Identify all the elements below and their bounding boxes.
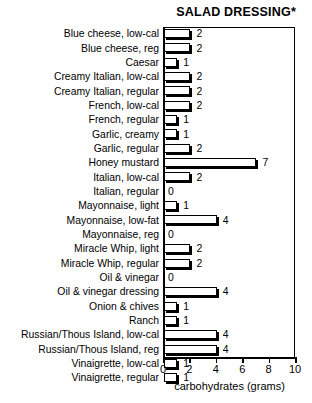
bar-face: [164, 144, 190, 153]
bar: [164, 302, 177, 311]
bar: [164, 72, 190, 81]
bar-area: 1: [164, 199, 312, 213]
category-label: French, low-cal: [89, 101, 159, 111]
bar-value-label: 1: [183, 115, 189, 125]
bar-value-label: 2: [196, 258, 202, 268]
bar-face: [164, 86, 190, 95]
bar-face: [164, 345, 217, 354]
bar-value-label: 2: [196, 172, 202, 182]
bar-face: [164, 172, 190, 181]
bar-row: Onion & chives1: [0, 300, 312, 314]
category-label: Caesar: [126, 58, 160, 68]
x-axis-tick-labels: 0246810: [163, 364, 296, 378]
bar-value-label: 0: [168, 230, 174, 240]
bar: [164, 43, 190, 52]
bar-area: 1: [164, 127, 312, 141]
bar-value-label: 0: [168, 273, 174, 283]
bar-area: 1: [164, 314, 312, 328]
bar: [164, 287, 217, 296]
bar-row: Miracle Whip, regular2: [0, 257, 312, 271]
bar-value-label: 2: [196, 29, 202, 39]
bar-row: Russian/Thous Island, low-cal4: [0, 328, 312, 342]
bar-row: Russian/Thous Island, reg4: [0, 343, 312, 357]
bar: [164, 29, 190, 38]
bar-area: 2: [164, 142, 312, 156]
bar-face: [164, 101, 190, 110]
bar-rows: Blue cheese, low-cal2Blue cheese, reg2Ca…: [0, 27, 312, 386]
bar-value-label: 2: [196, 101, 202, 111]
category-label: Mayonnaise, light: [78, 201, 159, 211]
bar-face: [164, 43, 190, 52]
bar: [164, 172, 190, 181]
bar: [164, 144, 190, 153]
bar-row: Honey mustard7: [0, 156, 312, 170]
bar-area: 2: [164, 170, 312, 184]
bar-face: [164, 259, 190, 268]
category-label: Miracle Whip, light: [74, 244, 159, 254]
bar-row: Creamy Italian, low-cal2: [0, 70, 312, 84]
x-axis-tick-label: 10: [289, 364, 301, 375]
bar-value-label: 4: [223, 345, 229, 355]
bar-value-label: 1: [183, 316, 189, 326]
bar-value-label: 2: [196, 86, 202, 96]
category-label: Onion & chives: [89, 302, 159, 312]
x-axis-tick-label: 4: [213, 364, 219, 375]
x-axis-tick-label: 6: [239, 364, 245, 375]
bar-face: [164, 29, 190, 38]
bar-value-label: 2: [196, 43, 202, 53]
bar-row: French, regular1: [0, 113, 312, 127]
bar-row: Oil & vinegar0: [0, 271, 312, 285]
bar-row: Creamy Italian, regular2: [0, 84, 312, 98]
bar: [164, 158, 256, 167]
x-axis-tick-label: 8: [266, 364, 272, 375]
bar-value-label: 4: [223, 330, 229, 340]
bar-value-label: 1: [183, 302, 189, 312]
x-axis-ticks: [163, 357, 296, 363]
bar-area: 0: [164, 185, 312, 199]
bar-area: 0: [164, 271, 312, 285]
category-label: Italian, low-cal: [93, 172, 159, 182]
category-label: Creamy Italian, regular: [54, 86, 159, 96]
bar: [164, 115, 177, 124]
category-label: Russian/Thous Island, reg: [38, 345, 159, 355]
bar: [164, 345, 217, 354]
bar-face: [164, 129, 177, 138]
bar-area: 4: [164, 328, 312, 342]
bar: [164, 316, 177, 325]
bar-area: 2: [164, 242, 312, 256]
bar-row: Ranch1: [0, 314, 312, 328]
category-label: Russian/Thous Island, low-cal: [21, 330, 159, 340]
bar-row: Garlic, regular2: [0, 142, 312, 156]
bar-value-label: 4: [223, 215, 229, 225]
bar-row: Miracle Whip, light2: [0, 242, 312, 256]
x-axis-title: carbohydrates (grams): [163, 380, 296, 392]
bar-face: [164, 302, 177, 311]
chart-title: SALAD DRESSING*: [176, 5, 296, 19]
category-label: Garlic, creamy: [92, 129, 159, 139]
bar-row: Blue cheese, low-cal2: [0, 27, 312, 41]
bar-area: 2: [164, 70, 312, 84]
category-label: French, regular: [89, 115, 159, 125]
bar-face: [164, 201, 177, 210]
bar-area: 2: [164, 257, 312, 271]
category-label: Ranch: [129, 316, 159, 326]
category-label: Garlic, regular: [94, 144, 159, 154]
bar: [164, 129, 177, 138]
bar-area: 2: [164, 84, 312, 98]
bar-face: [164, 244, 190, 253]
category-label: Mayonnaise, reg: [82, 230, 159, 240]
bar-face: [164, 287, 217, 296]
bar-row: Mayonnaise, reg0: [0, 228, 312, 242]
bar-row: Blue cheese, reg2: [0, 41, 312, 55]
bar-row: Caesar1: [0, 56, 312, 70]
bar-value-label: 0: [168, 187, 174, 197]
bar-area: 2: [164, 99, 312, 113]
bar-face: [164, 330, 217, 339]
category-label: Miracle Whip, regular: [61, 258, 159, 268]
bar-area: 2: [164, 27, 312, 41]
category-label: Mayonnaise, low-fat: [67, 215, 159, 225]
category-label: Honey mustard: [89, 158, 159, 168]
bar-value-label: 7: [262, 158, 268, 168]
bar-area: 2: [164, 41, 312, 55]
bar-area: 7: [164, 156, 312, 170]
